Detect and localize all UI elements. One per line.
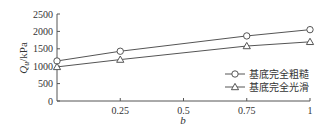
circle-marker (307, 26, 313, 32)
y-tick-label: 0 (48, 96, 53, 107)
circle-marker (117, 48, 123, 54)
x-axis-title: b (180, 114, 186, 126)
legend-label: 基底完全光滑 (249, 81, 309, 93)
line-chart: 05001000150020002500 0.250.50.751 基底完全粗糙… (0, 0, 322, 136)
x-tick-label: 1 (308, 105, 313, 116)
x-tick-label: 0.75 (238, 105, 256, 116)
y-tick-label: 2000 (33, 26, 53, 37)
x-tick-label: 0.25 (112, 105, 130, 116)
series-line (54, 26, 313, 64)
legend-item: 基底完全光滑 (225, 81, 309, 93)
y-tick-label: 1500 (33, 43, 53, 54)
y-tick-label: 2500 (33, 9, 53, 20)
y-tick-label: 1000 (33, 61, 53, 72)
data-series (53, 26, 313, 69)
circle-marker (232, 71, 238, 77)
legend-label: 基底完全粗糙 (249, 68, 309, 80)
triangle-marker (306, 38, 313, 44)
legend-item: 基底完全粗糙 (225, 68, 309, 80)
legend: 基底完全粗糙基底完全光滑 (225, 68, 309, 93)
y-tick-label: 500 (38, 78, 53, 89)
circle-marker (244, 33, 250, 39)
series-line (53, 38, 313, 69)
y-axis-title: Qu/kPa (17, 42, 31, 74)
